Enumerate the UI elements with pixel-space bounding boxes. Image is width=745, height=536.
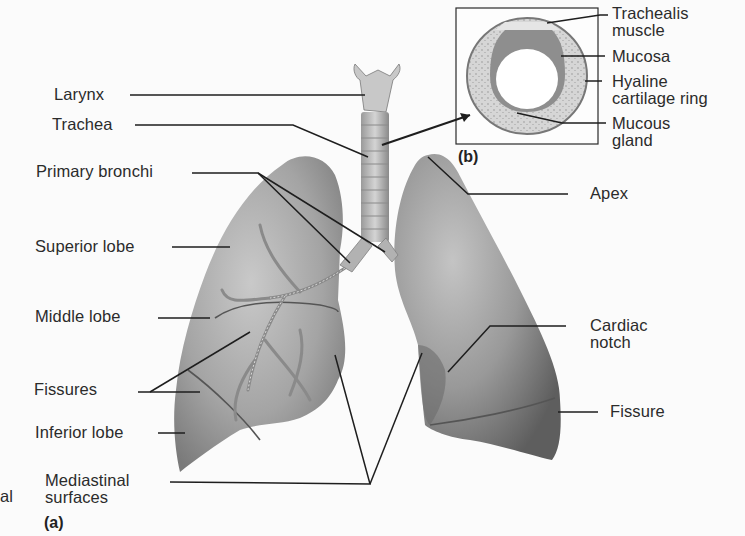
label-mediastinal-line1: Mediastinal bbox=[45, 472, 130, 489]
label-fissure: Fissure bbox=[610, 403, 665, 420]
label-cardiac-line2: notch bbox=[590, 334, 648, 351]
label-mediastinal-line2: surfaces bbox=[45, 489, 130, 506]
panel-tag-b: (b) bbox=[458, 148, 478, 166]
label-mucous-gland: Mucous gland bbox=[612, 115, 670, 149]
label-hyaline-line1: Hyaline bbox=[612, 73, 708, 90]
label-fissures: Fissures bbox=[34, 381, 97, 398]
panel-tag-a: (a) bbox=[44, 514, 64, 532]
right-lung bbox=[174, 156, 345, 472]
label-trachealis-muscle: Trachealis muscle bbox=[612, 5, 689, 39]
label-apex: Apex bbox=[590, 185, 628, 202]
label-larynx: Larynx bbox=[54, 86, 104, 103]
label-inferior-lobe: Inferior lobe bbox=[35, 424, 123, 441]
label-trachealis-line2: muscle bbox=[612, 22, 689, 39]
label-primary-bronchi: Primary bronchi bbox=[36, 163, 153, 180]
label-cardiac-line1: Cardiac bbox=[590, 317, 648, 334]
label-mucous-line2: gland bbox=[612, 132, 670, 149]
edge-text-fragment: al bbox=[0, 488, 13, 505]
lung-anatomy-figure: Larynx Trachea Primary bronchi Superior … bbox=[0, 0, 745, 536]
label-mucosa: Mucosa bbox=[612, 48, 670, 65]
left-lung bbox=[394, 154, 560, 460]
label-cardiac-notch: Cardiac notch bbox=[590, 317, 648, 351]
label-trachea: Trachea bbox=[52, 116, 113, 133]
label-mucous-line1: Mucous bbox=[612, 115, 670, 132]
label-trachealis-line1: Trachealis bbox=[612, 5, 689, 22]
label-hyaline-cartilage-ring: Hyaline cartilage ring bbox=[612, 73, 708, 107]
label-hyaline-line2: cartilage ring bbox=[612, 90, 708, 107]
label-mediastinal-surfaces: Mediastinal surfaces bbox=[45, 472, 130, 506]
label-superior-lobe: Superior lobe bbox=[35, 238, 134, 255]
label-middle-lobe: Middle lobe bbox=[35, 308, 121, 325]
trachea-cross-section-inset bbox=[382, 8, 598, 145]
